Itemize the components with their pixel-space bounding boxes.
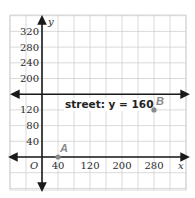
x-tick-label: 200 (112, 160, 131, 171)
y-tick-label: 40 (26, 136, 39, 147)
y-tick-label: 280 (20, 42, 39, 53)
point-a (55, 154, 60, 159)
y-tick-label: 200 (20, 73, 39, 84)
x-tick-label: 120 (80, 160, 99, 171)
y-tick-label: 240 (20, 57, 39, 68)
x-tick-label: 40 (52, 160, 65, 171)
coordinate-graph: 40120200280 4080120200240280320 y x O st… (0, 0, 195, 198)
x-axis-label: x (178, 160, 184, 171)
y-axis-label: y (47, 16, 54, 27)
x-tick-label: 280 (144, 160, 163, 171)
x-tick-labels: 40120200280 (52, 160, 164, 171)
street-label: street: y = 160 (65, 98, 153, 110)
y-tick-labels: 4080120200240280320 (20, 26, 39, 147)
y-tick-label: 120 (20, 104, 39, 115)
point-label-a: A (59, 142, 68, 154)
point-label-b: B (156, 95, 164, 107)
y-tick-label: 80 (26, 120, 39, 131)
origin-label: O (30, 160, 38, 171)
point-b (151, 107, 156, 112)
y-tick-label: 320 (20, 26, 39, 37)
